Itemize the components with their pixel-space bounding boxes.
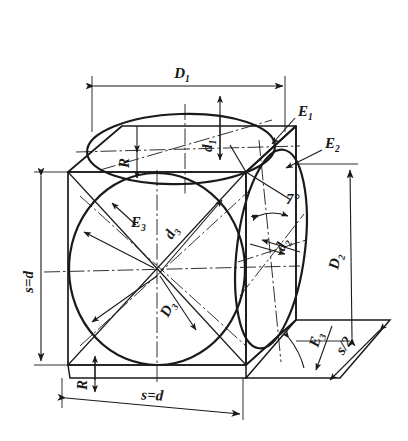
dimension-D1: D1	[92, 65, 285, 132]
cube-wireframe	[68, 126, 296, 365]
label-R-bottom: R	[74, 380, 90, 391]
technical-drawing-svg: D1 d1 R E1 E2 7° d	[0, 0, 408, 441]
leader-R-top: R	[116, 126, 137, 178]
dimension-d1: d1	[199, 96, 220, 160]
ellipse-right-face	[225, 146, 317, 353]
label-s-equals-d-bottom: s=d	[140, 386, 164, 403]
svg-text:D1: D1	[173, 65, 190, 84]
svg-text:E3: E3	[130, 214, 146, 233]
svg-text:E3: E3	[305, 330, 328, 351]
angle-7-degrees: 7°	[252, 191, 300, 216]
dimension-s-equals-d-left: s=d	[20, 172, 72, 365]
label-E1: E	[297, 103, 308, 119]
drawing-canvas: D1 d1 R E1 E2 7° d	[0, 0, 408, 441]
label-E2-sub: 2	[334, 144, 340, 154]
construction-lines	[68, 126, 296, 365]
dimension-s-over-2: s/2	[316, 326, 380, 380]
label-D1: D	[173, 65, 185, 81]
svg-text:E1: E1	[297, 103, 313, 122]
label-d1-sub: 1	[208, 140, 218, 145]
leader-E3-bottom: E3	[289, 330, 328, 368]
inscribed-ellipses	[67, 111, 317, 367]
svg-text:D2: D2	[325, 252, 347, 272]
label-R-top: R	[116, 158, 132, 169]
leader-R-bottom: R	[74, 356, 95, 392]
label-s-equals-d-left: s=d	[20, 271, 36, 294]
leader-E2: E2	[286, 135, 340, 168]
label-E3: E	[130, 214, 141, 230]
leader-E3-front: E3	[112, 203, 146, 233]
label-E2: E	[324, 135, 335, 151]
center-lines	[44, 104, 306, 382]
centerline-right-vertical	[259, 140, 281, 362]
label-D1-sub: 1	[185, 74, 190, 84]
svg-text:d1: d1	[199, 140, 218, 152]
svg-text:d3: d3	[161, 223, 184, 243]
dimension-d2: d2	[250, 236, 300, 255]
svg-text:E2: E2	[324, 135, 340, 154]
label-E3-sub: 3	[140, 223, 146, 233]
leader-E1: E1	[272, 103, 313, 144]
centerline-top-horizontal	[76, 146, 300, 152]
centerline-right-iso	[240, 214, 304, 296]
label-E1-sub: 1	[308, 112, 313, 122]
label-7-degrees: 7°	[286, 191, 300, 207]
